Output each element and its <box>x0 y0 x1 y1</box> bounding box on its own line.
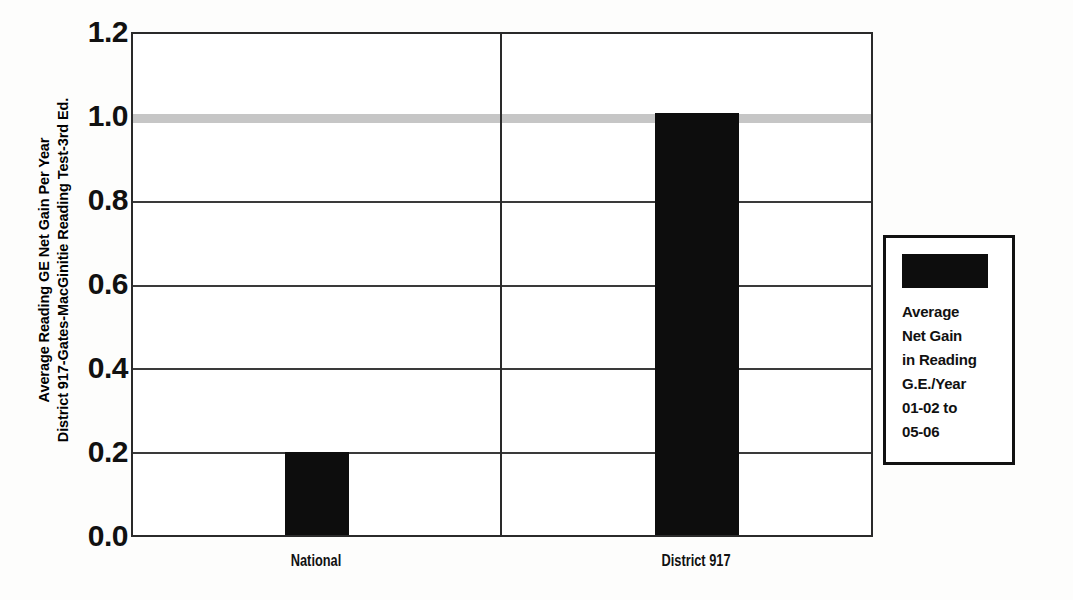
legend-label: Average Net Gain in Reading G.E./Year 01… <box>902 300 1006 444</box>
y-axis-tick-labels: 1.2 1.0 0.8 0.6 0.4 0.2 0.0 <box>84 0 128 600</box>
y-tick-0.4: 0.4 <box>84 353 128 383</box>
y-tick-0.6: 0.6 <box>84 269 128 299</box>
y-tick-0.0: 0.0 <box>84 521 128 551</box>
legend-line-6: 05-06 <box>902 420 1006 444</box>
plot-area <box>131 32 873 537</box>
y-axis-title: Average Reading GE Net Gain Per Year Dis… <box>18 0 90 540</box>
gridline-0.6 <box>133 285 871 287</box>
legend-line-5: 01-02 to <box>902 396 1006 420</box>
legend-line-1: Average <box>902 300 1006 324</box>
x-tick-national: National <box>268 552 364 570</box>
legend-line-2: Net Gain <box>902 324 1006 348</box>
y-axis-title-line-1: Average Reading GE Net Gain Per Year <box>35 98 54 442</box>
reference-band-1.0 <box>133 114 871 123</box>
y-tick-0.8: 0.8 <box>84 185 128 215</box>
y-axis-title-line-2: District 917-Gates-MacGinitie Reading Te… <box>54 98 73 442</box>
gridline-0.4 <box>133 368 871 370</box>
y-tick-0.2: 0.2 <box>84 437 128 467</box>
bar-district-917[interactable] <box>655 113 739 535</box>
y-tick-1.0: 1.0 <box>84 101 128 131</box>
gridline-0.8 <box>133 201 871 203</box>
y-tick-1.2: 1.2 <box>84 17 128 47</box>
legend-swatch-average-net-gain <box>902 254 988 288</box>
bar-national[interactable] <box>285 452 349 536</box>
legend-box: Average Net Gain in Reading G.E./Year 01… <box>883 235 1015 465</box>
x-tick-district-917: District 917 <box>640 552 752 570</box>
legend-line-4: G.E./Year <box>902 372 1006 396</box>
category-divider <box>500 34 502 535</box>
gridline-0.2 <box>133 452 871 454</box>
chart-page: Average Reading GE Net Gain Per Year Dis… <box>0 0 1073 600</box>
legend-line-3: in Reading <box>902 348 1006 372</box>
